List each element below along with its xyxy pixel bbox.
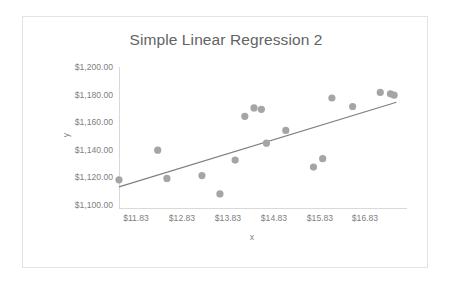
regression-trendline xyxy=(119,102,396,187)
scatter-plot: $1,200.00 $1,180.00 $1,160.00 $1,140.00 … xyxy=(23,17,429,269)
x-axis-title: x xyxy=(250,232,255,242)
data-point xyxy=(282,127,289,134)
data-point xyxy=(250,104,257,111)
data-point xyxy=(391,92,398,99)
data-point xyxy=(349,103,356,110)
y-tick-label-1140: $1,140.00 xyxy=(75,145,113,155)
data-point xyxy=(319,155,326,162)
data-point xyxy=(232,156,239,163)
chart-card: Simple Linear Regression 2 $1,200.00 $1,… xyxy=(22,16,428,268)
x-tick-label-1483: $14.83 xyxy=(261,213,288,223)
x-tick-label-1383: $13.83 xyxy=(215,213,242,223)
data-point xyxy=(154,147,161,154)
y-tick-label-1160: $1,160.00 xyxy=(75,117,113,127)
data-point xyxy=(115,176,122,183)
y-tick-label-1100: $1,100.00 xyxy=(75,200,113,210)
data-point xyxy=(377,89,384,96)
y-tick-label-1200: $1,200.00 xyxy=(75,62,113,72)
y-tick-label-1120: $1,120.00 xyxy=(75,172,113,182)
scatter-markers-group xyxy=(115,89,397,198)
data-point xyxy=(263,140,270,147)
data-point xyxy=(241,113,248,120)
x-tick-label-1683: $16.83 xyxy=(352,213,379,223)
y-tick-label-1180: $1,180.00 xyxy=(75,90,113,100)
data-point xyxy=(198,172,205,179)
data-point xyxy=(328,94,335,101)
data-point xyxy=(216,190,223,197)
data-point xyxy=(258,106,265,113)
data-point xyxy=(310,164,317,171)
data-point xyxy=(163,175,170,182)
x-tick-label-1283: $12.83 xyxy=(169,213,196,223)
y-axis-title: y xyxy=(61,132,71,137)
x-tick-label-1183: $11.83 xyxy=(123,213,149,223)
x-tick-label-1583: $15.83 xyxy=(307,213,334,223)
